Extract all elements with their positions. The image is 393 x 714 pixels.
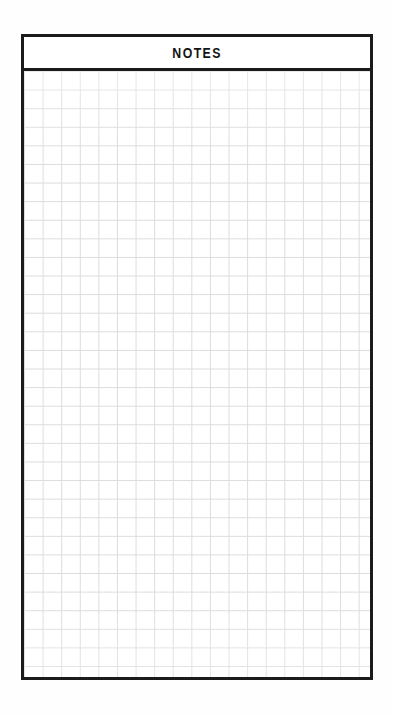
notepad-page: NOTES [0, 0, 393, 714]
notes-panel: NOTES [21, 34, 373, 680]
notes-header: NOTES [24, 37, 370, 71]
page-title: NOTES [172, 46, 221, 60]
grid-paper-area[interactable] [24, 71, 370, 677]
